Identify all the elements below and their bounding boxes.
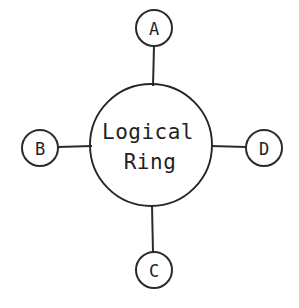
node-b[interactable]: B bbox=[22, 130, 58, 166]
diagram-canvas: Logical Ring A B D C bbox=[0, 0, 299, 308]
ring-label-line2: Ring bbox=[124, 150, 177, 174]
edge-ring-to-c bbox=[152, 205, 153, 252]
node-a-label: A bbox=[149, 19, 159, 39]
ring-label-line1: Logical bbox=[102, 120, 194, 144]
node-c-label: C bbox=[149, 261, 159, 281]
edge-ring-to-d bbox=[211, 146, 246, 147]
node-c[interactable]: C bbox=[136, 252, 172, 288]
node-d[interactable]: D bbox=[246, 130, 282, 166]
edge-b-to-ring bbox=[58, 146, 92, 147]
logical-ring-diagram: Logical Ring A B D C bbox=[0, 0, 299, 308]
node-b-label: B bbox=[35, 139, 45, 159]
node-d-label: D bbox=[259, 139, 269, 159]
ring-circle-outline bbox=[90, 84, 212, 206]
edge-a-to-ring bbox=[153, 46, 154, 86]
ring-node[interactable]: Logical Ring bbox=[90, 84, 212, 206]
edge-group bbox=[58, 46, 246, 252]
node-a[interactable]: A bbox=[136, 10, 172, 46]
